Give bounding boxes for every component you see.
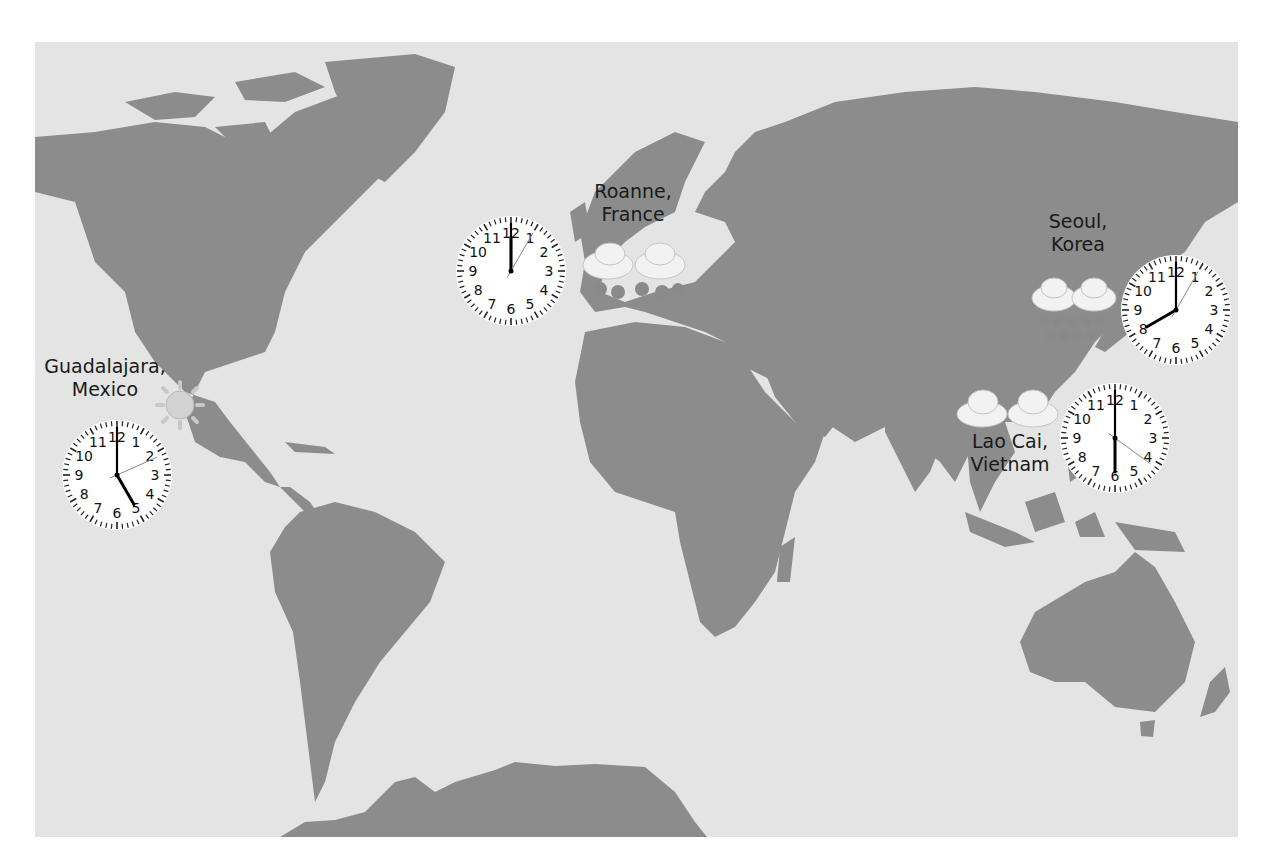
- svg-text:6: 6: [1172, 340, 1181, 356]
- clock-icon-seoul: 121234567891011: [1120, 254, 1232, 366]
- svg-text:11: 11: [1148, 269, 1166, 285]
- svg-text:11: 11: [89, 434, 107, 450]
- svg-text:7: 7: [488, 296, 497, 312]
- svg-text:10: 10: [1073, 411, 1091, 427]
- svg-text:4: 4: [1204, 321, 1213, 337]
- svg-text:9: 9: [469, 263, 478, 279]
- svg-text:2: 2: [539, 244, 548, 260]
- svg-text:7: 7: [1092, 463, 1101, 479]
- svg-text:8: 8: [1139, 321, 1148, 337]
- location-label-roanne: Roanne, France: [578, 180, 688, 226]
- rain-cloud-icon: [1030, 270, 1120, 360]
- svg-text:9: 9: [1073, 430, 1082, 446]
- svg-text:11: 11: [483, 230, 501, 246]
- svg-text:10: 10: [1134, 283, 1152, 299]
- svg-text:8: 8: [1078, 449, 1087, 465]
- svg-text:6: 6: [507, 301, 516, 317]
- svg-text:3: 3: [1210, 302, 1219, 318]
- svg-text:3: 3: [1149, 430, 1158, 446]
- svg-text:8: 8: [80, 486, 89, 502]
- country-name: Mexico: [30, 378, 180, 401]
- location-label-seoul: Seoul, Korea: [1038, 210, 1118, 256]
- svg-text:4: 4: [145, 486, 154, 502]
- svg-text:7: 7: [94, 500, 103, 516]
- city-name: Guadalajara,: [30, 355, 180, 378]
- location-label-lao-cai: Lao Cai, Vietnam: [960, 430, 1060, 476]
- svg-text:5: 5: [526, 296, 535, 312]
- svg-text:7: 7: [1153, 335, 1162, 351]
- svg-text:5: 5: [1130, 463, 1139, 479]
- country-name: Korea: [1038, 233, 1118, 256]
- city-name: Roanne,: [578, 180, 688, 203]
- city-name: Lao Cai,: [960, 430, 1060, 453]
- clock-icon-guadalajara: 121234567891011: [61, 419, 173, 531]
- country-name: Vietnam: [960, 453, 1060, 476]
- svg-text:1: 1: [132, 434, 141, 450]
- svg-text:3: 3: [545, 263, 554, 279]
- svg-text:11: 11: [1087, 397, 1105, 413]
- svg-text:2: 2: [1204, 283, 1213, 299]
- city-name: Seoul,: [1038, 210, 1118, 233]
- svg-text:4: 4: [539, 282, 548, 298]
- location-label-guadalajara: Guadalajara, Mexico: [30, 355, 180, 401]
- svg-text:1: 1: [1130, 397, 1139, 413]
- svg-text:10: 10: [469, 244, 487, 260]
- svg-text:9: 9: [75, 467, 84, 483]
- svg-text:9: 9: [1134, 302, 1143, 318]
- svg-text:6: 6: [113, 505, 122, 521]
- clock-icon-lao-cai: 121234567891011: [1059, 382, 1171, 494]
- svg-text:3: 3: [151, 467, 160, 483]
- country-name: France: [578, 203, 688, 226]
- rain-cloud-icon: [580, 237, 690, 307]
- svg-text:8: 8: [474, 282, 483, 298]
- cloud-icon: [955, 382, 1060, 432]
- svg-text:4: 4: [1143, 449, 1152, 465]
- svg-text:2: 2: [1143, 411, 1152, 427]
- svg-text:10: 10: [75, 448, 93, 464]
- svg-text:5: 5: [1191, 335, 1200, 351]
- clock-icon-roanne: 121234567891011: [455, 215, 567, 327]
